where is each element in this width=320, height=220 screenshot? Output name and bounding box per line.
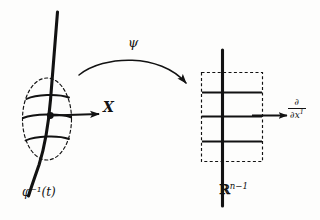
- partial-denominator-text: ∂x: [290, 110, 300, 120]
- left-panel-group: [23, 12, 100, 196]
- partial-denominator: ∂x1: [288, 109, 306, 120]
- psi-connector-group: [79, 60, 186, 83]
- preimage-curve: [29, 12, 58, 196]
- partial-derivative-fraction: ∂ ∂x1: [288, 98, 306, 121]
- preimage-curve-label: φ⁻¹(t): [22, 186, 56, 198]
- blackboard-r-glyph: ℝ: [219, 182, 230, 197]
- partial-denominator-index: 1: [300, 108, 304, 115]
- psi-map-arc: [79, 60, 186, 83]
- vector-field-x-label: X: [103, 100, 114, 114]
- target-space-exponent: n−1: [230, 181, 248, 191]
- partial-derivative-label: ∂ ∂x1: [288, 98, 306, 121]
- partial-numerator: ∂: [288, 98, 306, 107]
- math-diagram: ψ X φ⁻¹(t) ℝn−1 ∂ ∂x1: [0, 0, 320, 220]
- psi-map-label: ψ: [128, 36, 138, 49]
- left-grid-line-1: [27, 95, 70, 99]
- target-space-label: ℝn−1: [219, 182, 248, 196]
